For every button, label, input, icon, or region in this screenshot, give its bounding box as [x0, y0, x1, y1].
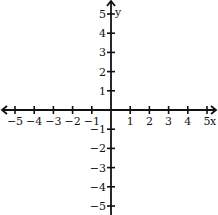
coordinate-plane: −5−4−3−2−112345 −5−4−3−2−112345 x y: [0, 0, 218, 215]
x-tick-label: 3: [165, 115, 172, 128]
y-tick-label: 2: [99, 66, 106, 79]
x-tick-label: −2: [64, 115, 80, 128]
x-tick-label: −5: [7, 115, 23, 128]
y-tick-label: −5: [90, 200, 106, 213]
x-tick-label: 4: [184, 115, 191, 128]
y-tick-label: −2: [90, 142, 106, 155]
x-tick-label: −4: [26, 115, 42, 128]
y-tick-label: 3: [99, 46, 106, 59]
y-axis: −5−4−3−2−112345: [90, 1, 115, 215]
y-axis-label: y: [114, 6, 122, 19]
y-tick-label: 5: [99, 8, 106, 21]
x-tick-label: 1: [127, 115, 134, 128]
x-axis: −5−4−3−2−112345: [2, 106, 216, 128]
x-tick-label: 2: [146, 115, 153, 128]
y-tick-label: −3: [90, 162, 106, 175]
x-axis-label: x: [210, 115, 217, 128]
y-tick-label: −1: [90, 123, 106, 136]
y-tick-label: 1: [99, 85, 106, 98]
y-tick-label: −4: [90, 181, 106, 194]
y-tick-label: 4: [99, 27, 106, 40]
x-tick-label: −3: [45, 115, 61, 128]
